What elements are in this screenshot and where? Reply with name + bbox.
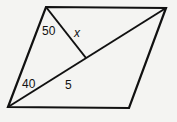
figure-canvas: 50 x 40 5: [0, 0, 177, 122]
diagonal: [8, 8, 166, 107]
geometry-figure: 50 x 40 5: [0, 0, 177, 122]
angle-label-40: 40: [22, 77, 36, 91]
segment-label-5: 5: [65, 78, 72, 92]
angle-label-50: 50: [42, 24, 56, 38]
segment-label-x: x: [73, 26, 81, 40]
